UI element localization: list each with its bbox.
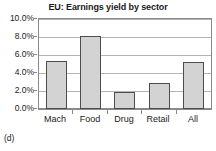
x-tick-label: Food — [80, 114, 101, 125]
bar — [46, 61, 67, 109]
x-tick-mark — [107, 110, 108, 114]
bar — [114, 92, 135, 109]
x-axis: MachFoodDrugRetailAll — [38, 110, 212, 132]
y-tick-label: 0.0% — [15, 104, 34, 113]
y-tick-label: 8.0% — [15, 32, 34, 41]
x-tick-label: Drug — [114, 114, 134, 125]
y-tick-mark — [34, 72, 37, 73]
x-tick-mark — [176, 110, 177, 114]
plot-area — [38, 18, 212, 110]
figure-panel: EU: Earnings yield by sector 0.0%2.0%4.0… — [0, 0, 216, 151]
y-tick-mark — [34, 90, 37, 91]
x-tick-label: Mach — [44, 114, 66, 125]
bar — [149, 83, 170, 109]
y-tick-label: 4.0% — [15, 68, 34, 77]
y-tick-mark — [34, 36, 37, 37]
bar — [80, 36, 101, 109]
x-tick-mark — [72, 110, 73, 114]
x-tick-label: All — [188, 114, 198, 125]
y-axis: 0.0%2.0%4.0%6.0%8.0%10.0% — [0, 18, 36, 110]
chart-title: EU: Earnings yield by sector — [0, 2, 216, 13]
y-tick-mark — [34, 108, 37, 109]
x-tick-mark — [141, 110, 142, 114]
x-tick-label: Retail — [146, 114, 169, 125]
figure-caption: (d) — [4, 133, 14, 143]
y-tick-mark — [34, 18, 37, 19]
bar-series — [39, 19, 211, 109]
y-tick-label: 6.0% — [15, 50, 34, 59]
y-tick-label: 2.0% — [15, 86, 34, 95]
bar — [183, 62, 204, 109]
y-tick-label: 10.0% — [10, 14, 34, 23]
y-tick-mark — [34, 54, 37, 55]
